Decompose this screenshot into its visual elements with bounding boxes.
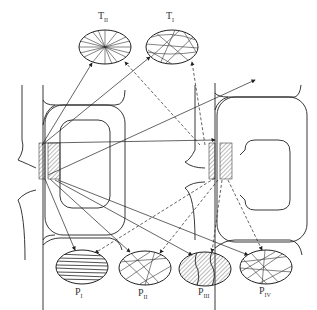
diagram-canvas: [0, 0, 317, 310]
pattern-t1: [146, 30, 198, 64]
label-p1: PI: [75, 286, 83, 299]
pattern-p4: [240, 250, 292, 285]
label-t2: TII: [98, 10, 108, 23]
label-p4: PIV: [259, 285, 271, 298]
label-t1: TI: [166, 10, 174, 23]
label-p2: PII: [138, 287, 148, 300]
right-junction: [209, 143, 232, 179]
right-arrows: [95, 62, 262, 253]
pattern-t2: [79, 30, 131, 64]
pattern-p3: [179, 252, 231, 286]
label-p3: PIII: [198, 286, 210, 299]
pattern-p1: [56, 250, 108, 284]
pattern-p2: [119, 251, 171, 285]
left-junction: [39, 143, 60, 179]
